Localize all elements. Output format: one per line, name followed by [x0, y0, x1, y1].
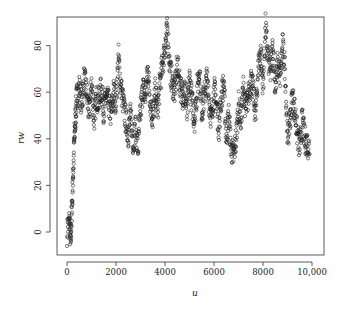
x-tick-label: 8000: [252, 267, 274, 277]
x-tick-label: 6000: [203, 267, 225, 277]
y-tick-label: 40: [33, 133, 43, 144]
data-points: [65, 12, 311, 248]
y-tick-label: 0: [33, 229, 43, 234]
x-tick-label: 0: [64, 267, 69, 277]
x-tick-label: 10,000: [297, 267, 327, 277]
x-tick-label: 2000: [105, 267, 127, 277]
y-axis-title: rw: [16, 132, 26, 144]
random-walk-plot: 0200040006000800010,000 020406080 u rw: [0, 0, 345, 313]
y-axis: 020406080: [33, 40, 50, 235]
y-tick-label: 80: [33, 40, 43, 51]
x-tick-label: 4000: [154, 267, 176, 277]
x-axis: 0200040006000800010,000: [64, 262, 327, 277]
y-tick-label: 20: [33, 180, 43, 191]
y-tick-label: 60: [33, 87, 43, 98]
x-axis-title: u: [192, 288, 198, 298]
